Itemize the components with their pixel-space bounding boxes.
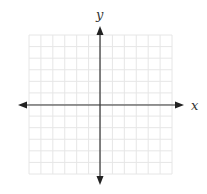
x-axis-label: x [191, 98, 199, 113]
y-axis-label: y [95, 7, 104, 22]
up-arrow-icon [97, 26, 104, 35]
down-arrow-icon [97, 176, 104, 185]
coordinate-plane: x y [0, 0, 207, 194]
left-arrow-icon [18, 102, 27, 109]
right-arrow-icon [175, 102, 184, 109]
